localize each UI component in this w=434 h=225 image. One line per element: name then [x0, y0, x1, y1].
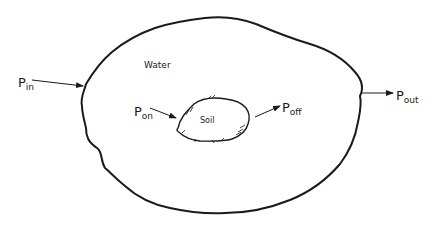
label-p-on: Pon — [134, 104, 153, 121]
label-p-in: Pin — [18, 75, 34, 92]
label-soil: Soil — [200, 116, 214, 125]
label-p-out: Pout — [396, 88, 419, 105]
label-p-off: Poff — [282, 100, 302, 117]
diagram-canvas: Water Soil Pin Pon Poff Pout — [0, 0, 434, 225]
arrow-off — [255, 106, 280, 117]
water-boundary — [81, 17, 362, 213]
label-water: Water — [144, 60, 171, 70]
arrow-in — [32, 80, 83, 86]
arrow-on — [150, 108, 176, 118]
